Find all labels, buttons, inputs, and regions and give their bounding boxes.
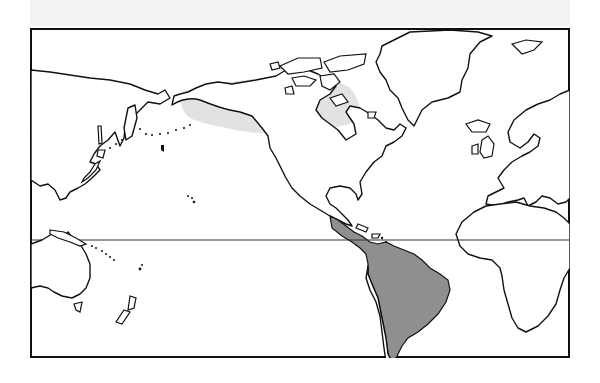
ireland <box>472 144 478 154</box>
sakhalin <box>98 126 102 144</box>
world-map <box>30 28 570 358</box>
hokkaido <box>97 150 105 158</box>
top-band <box>30 0 570 26</box>
